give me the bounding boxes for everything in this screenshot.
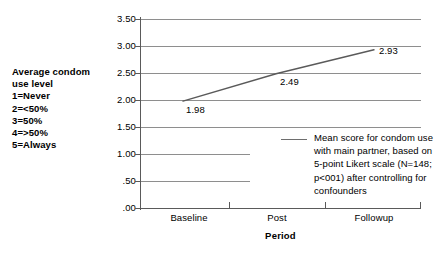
series-line-condom-use	[183, 50, 374, 101]
x-axis-title: Period	[140, 230, 421, 241]
point-value-label-baseline: 1.98	[186, 104, 205, 115]
legend-entry-label: Mean score for condom use with main part…	[314, 131, 434, 197]
x-tick-label-baseline: Baseline	[144, 212, 234, 224]
x-tick-label-post: Post	[232, 212, 322, 224]
x-tick-label-followup: Followup	[328, 212, 420, 224]
chart-figure: Average condom use level 1=Never 2=<50% …	[0, 0, 437, 263]
legend-line-swatch	[281, 139, 307, 140]
point-value-label-followup: 2.93	[379, 45, 398, 56]
point-value-label-post: 2.49	[280, 76, 299, 87]
